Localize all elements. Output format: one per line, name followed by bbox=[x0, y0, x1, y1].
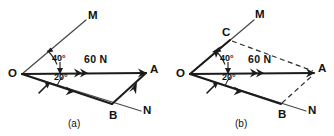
vector-diagram-figure: O M A B N 40° 20° 60 N (a) O M C A B N 4… bbox=[0, 0, 334, 136]
label-c-b: C bbox=[222, 27, 230, 39]
dashed-ca-b bbox=[232, 41, 313, 71]
label-n-a: N bbox=[143, 105, 151, 117]
panel-b-graphics bbox=[190, 20, 315, 111]
label-m-a: M bbox=[88, 10, 98, 22]
ray-om-a bbox=[22, 20, 86, 74]
label-angle-40-a: 40° bbox=[52, 54, 66, 63]
arrowhead-ob-a bbox=[66, 87, 75, 96]
caption-b: (b) bbox=[235, 119, 247, 129]
vector-ba-a bbox=[112, 73, 146, 104]
label-force-b: 60 N bbox=[248, 54, 271, 65]
label-b-a: B bbox=[109, 110, 117, 122]
label-a-b: A bbox=[318, 63, 326, 75]
dashed-ba-b bbox=[282, 75, 313, 103]
arrowhead-ob-b bbox=[234, 87, 243, 96]
label-origin-b: O bbox=[176, 68, 185, 80]
label-n-b: N bbox=[308, 105, 316, 117]
vector-oa-b bbox=[190, 73, 314, 74]
label-angle-40-b: 40° bbox=[220, 54, 234, 63]
label-angle-20-a: 20° bbox=[54, 73, 68, 82]
label-b-b: B bbox=[278, 109, 286, 121]
label-force-a: 60 N bbox=[84, 54, 107, 65]
label-m-b: M bbox=[255, 9, 265, 21]
label-origin-a: O bbox=[8, 68, 17, 80]
label-angle-20-b: 20° bbox=[222, 73, 236, 82]
panel-a-graphics bbox=[22, 20, 147, 111]
label-a-a: A bbox=[150, 64, 158, 76]
caption-a: (a) bbox=[68, 119, 80, 129]
